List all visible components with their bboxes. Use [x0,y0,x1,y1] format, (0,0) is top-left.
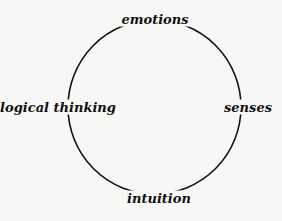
node-label-emotions: emotions [119,12,190,27]
node-label-logical-thinking: logical thinking [0,100,118,115]
node-label-intuition: intuition [125,191,193,206]
node-label-senses: senses [222,100,274,115]
